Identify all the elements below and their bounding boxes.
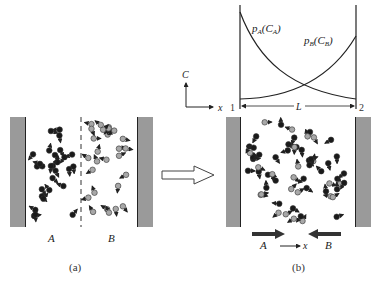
- flux-arrow-b-icon: [308, 229, 341, 239]
- caption-a: (a): [69, 261, 82, 274]
- caption-b: (b): [292, 261, 305, 274]
- right-wall: [138, 117, 153, 227]
- panel-a: A B (a): [10, 117, 153, 274]
- label-b: B: [108, 232, 115, 244]
- flux-arrow-a-icon: [252, 229, 285, 239]
- particles-b: [82, 121, 133, 216]
- flux-label-b: B: [325, 239, 332, 251]
- panel-b: A B x (b): [226, 117, 371, 274]
- left-wall-b: [226, 117, 240, 227]
- left-wall: [10, 117, 25, 227]
- right-wall-b: [356, 117, 371, 227]
- concentration-graph: pA(CA) pB(CB) C x 1 2 L: [182, 5, 364, 113]
- diffusion-diagram: A B (a) pA(CA) pB(CB) C x 1 2 L: [0, 0, 381, 286]
- curve-pb-label: pB(CB): [303, 34, 333, 48]
- axis-x-label: x: [217, 102, 223, 113]
- point-1-label: 1: [230, 102, 235, 113]
- flux-label-a: A: [259, 239, 267, 251]
- point-2-label: 2: [359, 102, 364, 113]
- curve-pa-label: pA(CA): [251, 22, 281, 36]
- length-label: L: [295, 101, 302, 112]
- particles-mixed: [245, 118, 347, 224]
- hollow-right-arrow-icon: [162, 166, 214, 184]
- particles-a: [29, 127, 78, 222]
- x-direction-label: x: [302, 240, 308, 251]
- axis-c-label: C: [182, 69, 189, 80]
- label-a: A: [47, 232, 55, 244]
